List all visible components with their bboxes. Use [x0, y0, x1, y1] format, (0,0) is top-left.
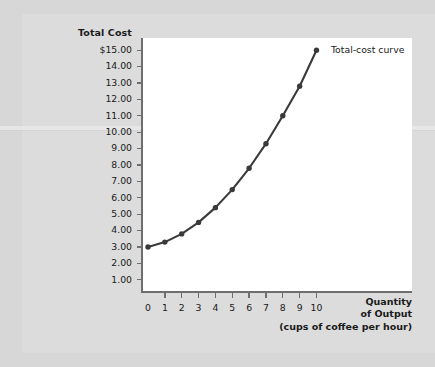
x-tick-mark — [181, 292, 182, 298]
x-tick-label: 10 — [307, 302, 327, 313]
y-tick-mark — [137, 132, 143, 133]
y-tick-mark — [137, 214, 143, 215]
y-tick-label: 1.00 — [80, 274, 132, 285]
y-tick-mark — [137, 164, 143, 165]
x-tick-mark — [215, 292, 216, 298]
x-tick-mark — [164, 292, 165, 298]
y-tick-mark — [137, 263, 143, 264]
y-axis-title: Total Cost — [78, 27, 132, 38]
x-axis-title-line-3: (cups of coffee per hour) — [252, 321, 412, 333]
y-tick-mark — [137, 115, 143, 116]
y-tick-mark — [137, 181, 143, 182]
y-tick-mark — [137, 99, 143, 100]
y-tick-label: 13.00 — [80, 77, 132, 88]
y-tick-mark — [137, 230, 143, 231]
y-tick-mark — [137, 66, 143, 67]
y-tick-mark — [137, 82, 143, 83]
y-tick-label: 5.00 — [80, 208, 132, 219]
y-tick-label: 10.00 — [80, 126, 132, 137]
y-tick-label: 6.00 — [80, 192, 132, 203]
x-tick-mark — [248, 292, 249, 298]
y-tick-label: $15.00 — [80, 44, 132, 55]
x-tick-mark — [316, 292, 317, 298]
x-tick-mark — [265, 292, 266, 298]
y-tick-mark — [137, 148, 143, 149]
y-tick-label: 7.00 — [80, 175, 132, 186]
chart-figure: Total Cost Quantity of Output (cups of c… — [0, 0, 435, 367]
y-tick-mark — [137, 279, 143, 280]
plot-area — [142, 38, 412, 292]
y-tick-label: 12.00 — [80, 93, 132, 104]
y-tick-label: 4.00 — [80, 224, 132, 235]
x-tick-mark — [282, 292, 283, 298]
y-tick-label: 14.00 — [80, 60, 132, 71]
y-tick-label: 2.00 — [80, 257, 132, 268]
y-tick-mark — [137, 197, 143, 198]
y-tick-mark — [137, 50, 143, 51]
series-label: Total-cost curve — [331, 44, 404, 55]
y-tick-mark — [137, 246, 143, 247]
y-tick-label: 8.00 — [80, 159, 132, 170]
y-tick-label: 11.00 — [80, 110, 132, 121]
x-tick-mark — [299, 292, 300, 298]
x-tick-mark — [198, 292, 199, 298]
y-tick-label: 9.00 — [80, 142, 132, 153]
y-tick-label: 3.00 — [80, 241, 132, 252]
x-tick-mark — [232, 292, 233, 298]
